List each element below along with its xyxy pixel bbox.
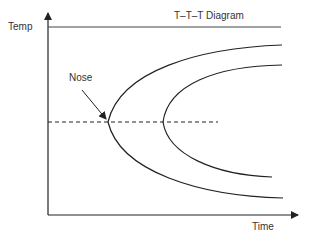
inner-c-curve xyxy=(163,65,282,177)
nose-label: Nose xyxy=(69,73,92,83)
y-axis-label: Temp xyxy=(8,22,32,32)
x-axis-label: Time xyxy=(252,222,274,232)
ttt-diagram-canvas xyxy=(0,0,310,243)
nose-arrow xyxy=(82,90,106,119)
diagram-title: T–T–T Diagram xyxy=(174,11,244,21)
